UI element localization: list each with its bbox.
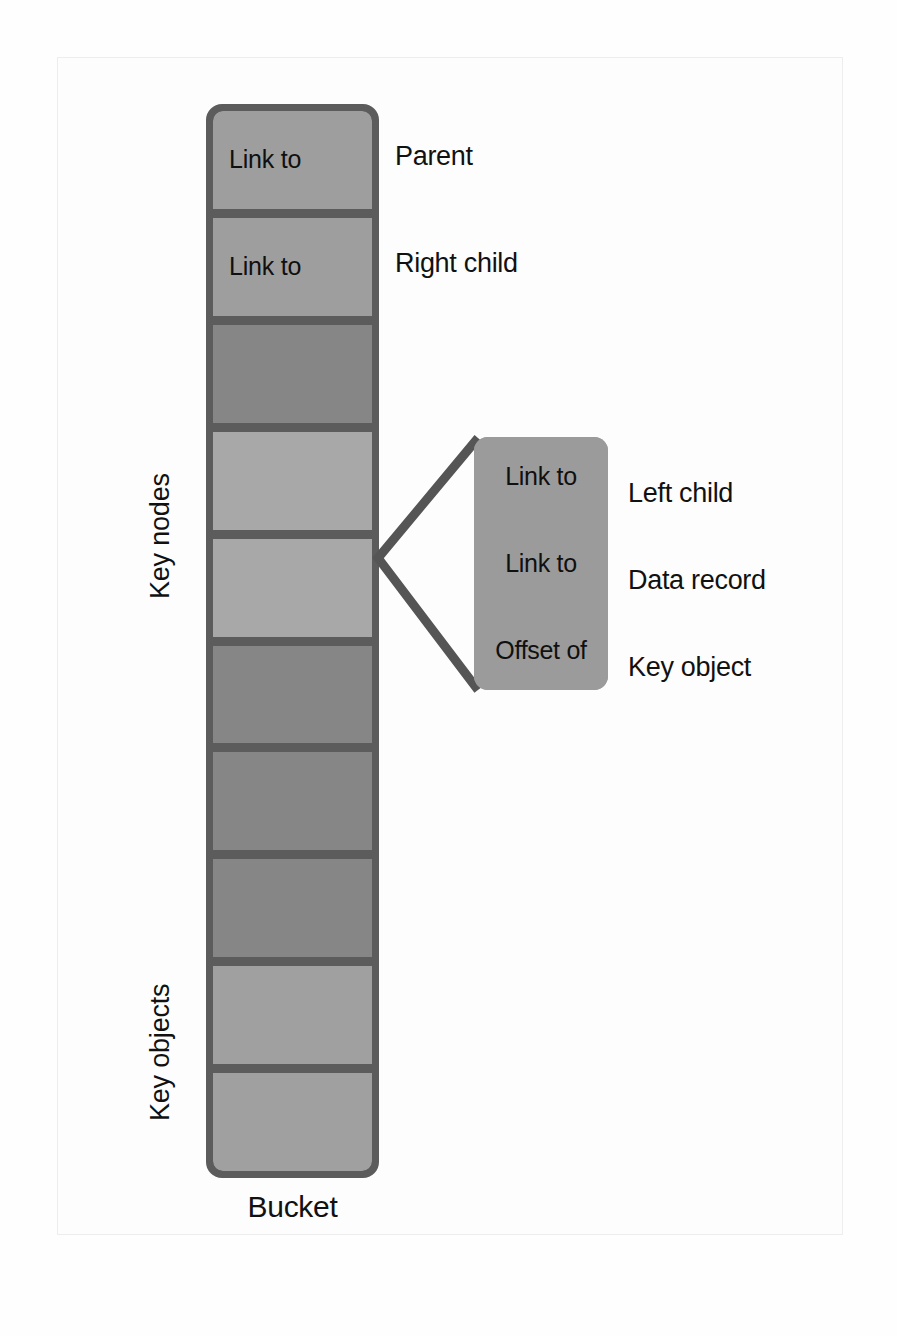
callout-note-data-record: Data record (628, 565, 766, 596)
callout-cell-label: Link to (505, 462, 577, 491)
callout-cell-label: Offset of (495, 636, 586, 665)
callout-note-key-object: Key object (628, 652, 751, 683)
bucket-note-right-child: Right child (395, 248, 518, 279)
page-background: Link to Link to Parent Right chi (0, 0, 897, 1336)
callout-detail-box: Link to Link to Offset of (474, 437, 608, 690)
bucket-cell[interactable] (213, 1073, 372, 1171)
bucket-cell-label: Link to (213, 147, 301, 172)
bucket-cell-label: Link to (213, 254, 301, 279)
bucket-cell[interactable] (213, 646, 372, 744)
bucket-cell[interactable] (213, 432, 372, 530)
bucket-cell[interactable]: Link to (213, 111, 372, 209)
callout-note-left-child: Left child (628, 478, 733, 509)
callout-cell[interactable]: Offset of (474, 611, 608, 690)
callout-cell[interactable]: Link to (474, 437, 608, 516)
group-label-key-objects: Key objects (145, 984, 176, 1121)
bucket-cell[interactable] (213, 325, 372, 423)
bucket-cell[interactable]: Link to (213, 218, 372, 316)
bucket-cell-highlighted[interactable] (213, 539, 372, 637)
bucket-caption: Bucket (206, 1190, 379, 1224)
callout-cell-label: Link to (505, 549, 577, 578)
bucket-cell[interactable] (213, 859, 372, 957)
bucket-cell[interactable] (213, 966, 372, 1064)
group-label-key-nodes: Key nodes (145, 473, 176, 599)
bucket-column: Link to Link to (206, 104, 379, 1178)
callout-cell[interactable]: Link to (474, 524, 608, 603)
bucket-cell[interactable] (213, 752, 372, 850)
bucket-note-parent: Parent (395, 141, 473, 172)
